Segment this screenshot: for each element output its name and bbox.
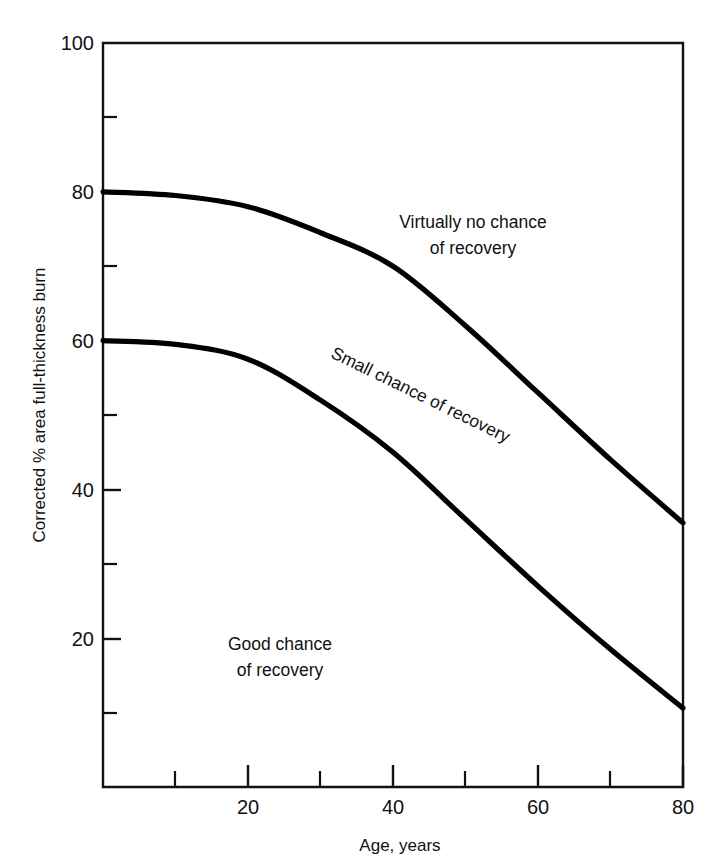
- y-axis-tick-label-20: 20: [72, 628, 94, 650]
- annotation-middle: Small chance of recovery: [328, 343, 514, 447]
- annotation-bottom-line-2: of recovery: [237, 660, 324, 680]
- x-axis-tick-label-60: 60: [527, 796, 549, 818]
- x-axis-tick-label-80: 80: [672, 796, 694, 818]
- plot-frame: [103, 43, 683, 787]
- y-axis-title: Corrected % area full-thickness burn: [30, 268, 49, 543]
- chart-figure: 100 80 60 40 20 20 40 60 80 Corrected % …: [0, 0, 718, 867]
- y-axis-tick-label-40: 40: [72, 479, 94, 501]
- y-axis-tick-label-100: 100: [61, 32, 94, 54]
- annotation-bottom-line-1: Good chance: [228, 634, 332, 654]
- lower-boundary-curve: [103, 341, 683, 709]
- annotation-top-line-2: of recovery: [430, 238, 517, 258]
- x-axis-tick-label-20: 20: [237, 796, 259, 818]
- upper-boundary-curve: [103, 192, 683, 523]
- annotation-top-line-1: Virtually no chance: [399, 212, 547, 232]
- x-axis-title: Age, years: [359, 836, 440, 855]
- x-axis-tick-label-40: 40: [382, 796, 404, 818]
- y-axis-tick-label-60: 60: [72, 330, 94, 352]
- y-axis-tick-label-80: 80: [72, 181, 94, 203]
- burn-survival-chart: 100 80 60 40 20 20 40 60 80 Corrected % …: [0, 0, 718, 867]
